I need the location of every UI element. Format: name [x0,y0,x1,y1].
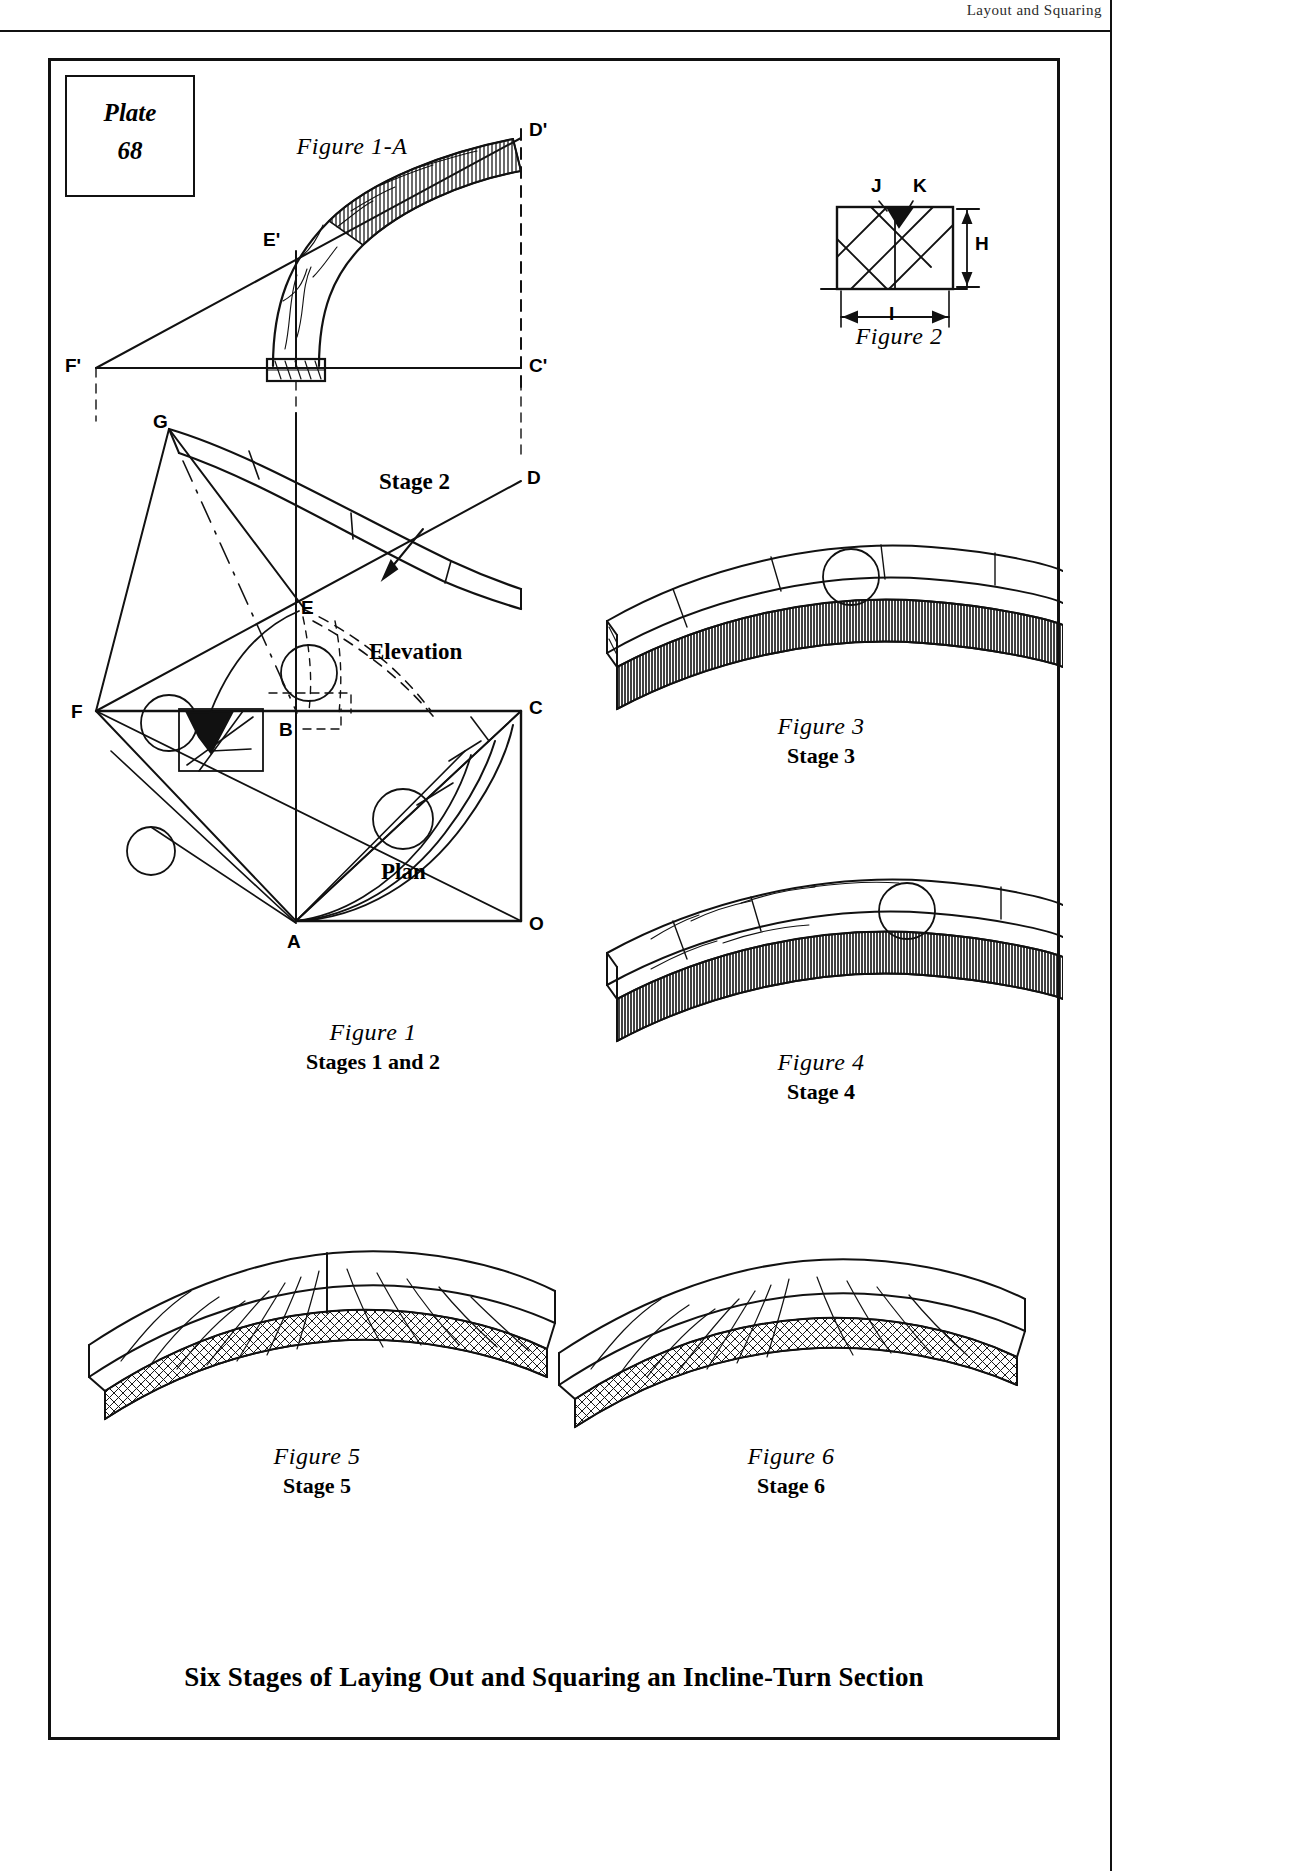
fig2-label-k: K [913,175,927,197]
running-head: Layout and Squaring [967,2,1102,19]
point-label-a: A [287,931,301,953]
plate-number: 68 [67,137,193,165]
point-label-o: O [529,913,544,935]
page-right-rule [1110,0,1112,1871]
point-label-c-prime: C' [529,355,547,377]
figure-4-caption: Figure 4 Stage 4 [711,1049,931,1105]
figure-1-title: Figure 1 [263,1019,483,1046]
fig2-label-j: J [871,175,882,197]
fig2-label-i: I [889,303,894,325]
figure-6-caption: Figure 6 Stage 6 [681,1443,901,1499]
plan-label: Plan [381,859,426,885]
point-label-f-prime: F' [65,355,81,377]
figure-4-subtitle: Stage 4 [711,1079,931,1105]
figure-2-caption: Figure 2 [799,323,999,350]
plate-number-box: Plate 68 [65,75,195,197]
figure-5-caption: Figure 5 Stage 5 [207,1443,427,1499]
point-label-d-prime: D' [529,119,547,141]
figure-5-title: Figure 5 [207,1443,427,1470]
figure-6-title: Figure 6 [681,1443,901,1470]
figure-3-caption: Figure 3 Stage 3 [711,713,931,769]
stage-2-callout: Stage 2 [379,469,450,495]
figure-4-title: Figure 4 [711,1049,931,1076]
point-label-c: C [529,697,543,719]
figure-5-subtitle: Stage 5 [207,1473,427,1499]
point-label-f: F [71,701,83,723]
figure-3-subtitle: Stage 3 [711,743,931,769]
elevation-label: Elevation [369,639,462,665]
plate-frame: Plate 68 [48,58,1060,1740]
point-label-e-prime: E' [263,229,280,251]
figure-3-title: Figure 3 [711,713,931,740]
point-label-e: E [301,597,314,619]
page-top-rule [0,30,1110,32]
plate-word: Plate [67,99,193,127]
figure-1a-caption: Figure 1-A [247,133,457,160]
plate-bottom-title: Six Stages of Laying Out and Squaring an… [51,1662,1057,1693]
figure-1a-title: Figure 1-A [247,133,457,160]
fig2-label-h: H [975,233,989,255]
point-label-d: D [527,467,541,489]
figure-2-title: Figure 2 [799,323,999,350]
figure-1-subtitle: Stages 1 and 2 [263,1049,483,1075]
figure-1-caption: Figure 1 Stages 1 and 2 [263,1019,483,1075]
figure-1a-drawing [51,61,1063,1743]
figure-6-subtitle: Stage 6 [681,1473,901,1499]
point-label-b: B [279,719,293,741]
point-label-g: G [153,411,168,433]
